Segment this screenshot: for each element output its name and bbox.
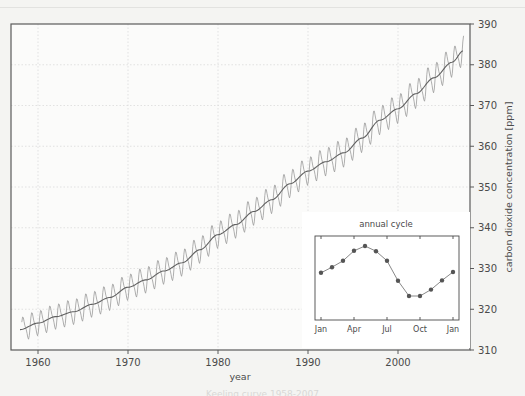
inset-data-point [341, 259, 345, 263]
x-tick-label: 1990 [295, 357, 320, 368]
y-tick-label: 340 [478, 222, 497, 233]
inset-data-point [363, 244, 367, 248]
x-tick-label: 1970 [115, 357, 140, 368]
inset-data-point [385, 259, 389, 263]
inset-title: annual cycle [359, 219, 413, 229]
inset-x-tick-label: Jan [446, 325, 459, 334]
inset-data-point [451, 270, 455, 274]
inset-x-tick-label: Jul [381, 325, 392, 334]
inset-x-tick-label: Apr [347, 325, 362, 334]
y-tick-label: 330 [478, 263, 497, 274]
inset-data-point [319, 271, 323, 275]
figure-caption: Keeling curve 1958-2007 [0, 389, 525, 396]
inset-data-point [440, 278, 444, 282]
y-axis-tick-labels: 310320330340350360370380390 [478, 19, 497, 356]
inset-annual-cycle: annual cycle JanAprJulOctJan [302, 212, 470, 348]
co2-chart: 310320330340350360370380390 196019701980… [0, 0, 525, 396]
x-tick-label: 1960 [25, 357, 50, 368]
figure-canvas: 310320330340350360370380390 196019701980… [0, 0, 525, 396]
y-tick-label: 390 [478, 19, 497, 30]
inset-data-point [429, 287, 433, 291]
x-tick-label: 2000 [385, 357, 410, 368]
inset-data-point [418, 294, 422, 298]
x-axis-title: year [229, 371, 250, 382]
inset-data-point [330, 265, 334, 269]
x-tick-label: 1980 [205, 357, 230, 368]
inset-x-tick-label: Oct [413, 325, 427, 334]
inset-data-point [407, 294, 411, 298]
y-tick-label: 350 [478, 182, 497, 193]
y-tick-label: 310 [478, 345, 497, 356]
x-axis-tick-labels: 19601970198019902000 [25, 357, 410, 368]
y-tick-label: 380 [478, 59, 497, 70]
y-tick-label: 360 [478, 141, 497, 152]
inset-x-tick-label: Jan [314, 325, 327, 334]
inset-data-point [374, 249, 378, 253]
inset-data-point [396, 279, 400, 283]
y-tick-label: 320 [478, 304, 497, 315]
inset-data-point [352, 249, 356, 253]
y-axis-title: carbon dioxide concentration [ppm] [503, 102, 514, 273]
y-tick-label: 370 [478, 100, 497, 111]
